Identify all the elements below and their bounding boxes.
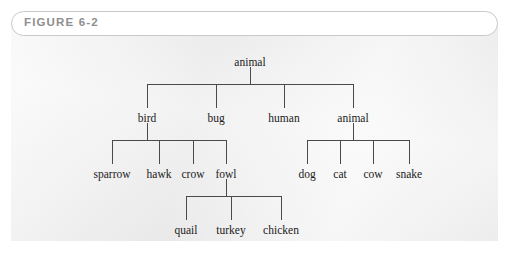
tree-edge-drop-human [284, 84, 285, 108]
tree-node-animal2: animal [337, 112, 368, 124]
tree-node-bird: bird [138, 112, 157, 124]
tree-node-cat: cat [333, 168, 346, 180]
tree-node-fowl: fowl [215, 168, 236, 180]
tree-edge-drop-sparrow [112, 140, 113, 164]
tree-edge-drop-cow [373, 140, 374, 164]
tree-edge-drop-crow [193, 140, 194, 164]
tree-edge-drop-animal2 [353, 84, 354, 108]
tree-edge-bar-animal2 [307, 140, 409, 141]
tree-edge-bar-fowl [186, 196, 281, 197]
tree-edge-stem-fowl [226, 179, 227, 196]
tree-edge-drop-dog [307, 140, 308, 164]
tree-node-snake: snake [396, 168, 422, 180]
tree-edge-drop-turkey [231, 196, 232, 220]
tree-diagram: animalbirdbughumananimalsparrowhawkcrowf… [0, 0, 514, 263]
tree-node-chicken: chicken [263, 224, 299, 236]
tree-edge-drop-bug [216, 84, 217, 108]
tree-edge-stem-bird [147, 123, 148, 140]
tree-edge-drop-snake [409, 140, 410, 164]
tree-node-root: animal [234, 56, 265, 68]
tree-node-sparrow: sparrow [93, 168, 130, 180]
tree-edge-drop-cat [340, 140, 341, 164]
tree-node-human: human [268, 112, 299, 124]
tree-node-quail: quail [175, 224, 198, 236]
tree-edge-drop-hawk [159, 140, 160, 164]
tree-node-hawk: hawk [147, 168, 172, 180]
tree-edge-bar-root [147, 84, 353, 85]
figure-screenshot: FIGURE 6-2 animalbirdbughumananimalsparr… [0, 0, 514, 263]
tree-node-crow: crow [182, 168, 205, 180]
tree-edge-drop-fowl [226, 140, 227, 164]
tree-node-turkey: turkey [216, 224, 245, 236]
tree-node-dog: dog [298, 168, 315, 180]
tree-edge-stem-root [250, 67, 251, 84]
tree-node-bug: bug [207, 112, 224, 124]
tree-edge-stem-animal2 [353, 123, 354, 140]
tree-edge-drop-bird [147, 84, 148, 108]
tree-node-cow: cow [363, 168, 382, 180]
tree-edge-drop-quail [186, 196, 187, 220]
tree-edge-bar-bird [112, 140, 226, 141]
tree-edge-drop-chicken [281, 196, 282, 220]
